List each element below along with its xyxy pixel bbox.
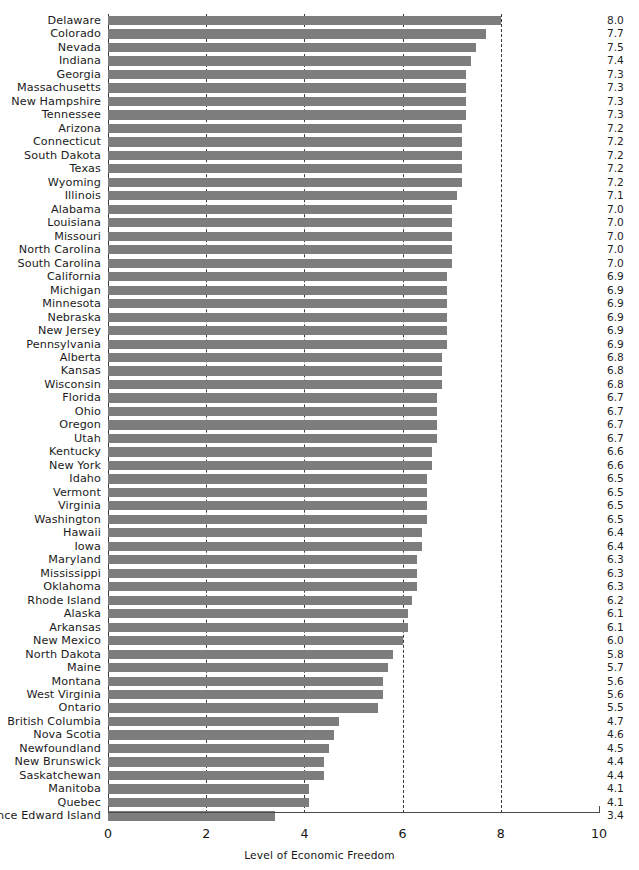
value-label: 7.5 [607, 41, 624, 54]
x-tick-label: 0 [78, 826, 138, 841]
x-axis-line [108, 812, 599, 813]
category-label: Rhode Island [0, 594, 101, 607]
bar-row: Arkansas6.1 [0, 621, 639, 634]
bar-row: Ohio6.7 [0, 405, 639, 418]
value-label: 4.1 [607, 782, 624, 795]
category-label: Minnesota [0, 297, 101, 310]
category-label: South Dakota [0, 149, 101, 162]
value-label: 4.4 [607, 755, 624, 768]
value-label: 7.2 [607, 122, 624, 135]
bar-row: Connecticut7.2 [0, 135, 639, 148]
bar [108, 474, 427, 483]
bar [108, 420, 437, 429]
bar [108, 730, 334, 739]
bar [108, 313, 447, 322]
bar [108, 29, 486, 38]
bar [108, 515, 427, 524]
category-label: New Mexico [0, 634, 101, 647]
bar [108, 461, 432, 470]
value-label: 5.6 [607, 688, 624, 701]
bar [108, 447, 432, 456]
value-label: 6.9 [607, 324, 624, 337]
category-label: Arkansas [0, 621, 101, 634]
bar [108, 528, 422, 537]
category-label: Quebec [0, 796, 101, 809]
bar [108, 205, 452, 214]
bar-row: Alaska6.1 [0, 607, 639, 620]
bar-row: Pennsylvania6.9 [0, 338, 639, 351]
value-label: 5.7 [607, 661, 624, 674]
value-label: 6.7 [607, 418, 624, 431]
category-label: Missouri [0, 230, 101, 243]
category-label: Newfoundland [0, 742, 101, 755]
x-tick-label: 6 [373, 826, 433, 841]
bar-row: Nebraska6.9 [0, 311, 639, 324]
bar [108, 636, 403, 645]
category-label: Prince Edward Island [0, 809, 101, 822]
bar-row: Indiana7.4 [0, 54, 639, 67]
value-label: 6.1 [607, 621, 624, 634]
bar [108, 582, 417, 591]
category-label: Nevada [0, 41, 101, 54]
category-label: Ohio [0, 405, 101, 418]
bar [108, 542, 422, 551]
value-label: 5.6 [607, 675, 624, 688]
bar-row: California6.9 [0, 270, 639, 283]
bar [108, 110, 466, 119]
bar [108, 191, 457, 200]
value-label: 7.7 [607, 27, 624, 40]
value-label: 8.0 [607, 14, 624, 27]
value-label: 7.2 [607, 176, 624, 189]
value-label: 4.5 [607, 742, 624, 755]
value-label: 6.3 [607, 553, 624, 566]
value-label: 6.9 [607, 270, 624, 283]
bar-row: New Brunswick4.4 [0, 755, 639, 768]
bar [108, 259, 452, 268]
bar [108, 488, 427, 497]
bar-row: Vermont6.5 [0, 486, 639, 499]
value-label: 6.3 [607, 567, 624, 580]
value-label: 7.2 [607, 135, 624, 148]
bar-row: Oklahoma6.3 [0, 580, 639, 593]
category-label: Kentucky [0, 445, 101, 458]
bar-row: South Dakota7.2 [0, 149, 639, 162]
value-label: 6.6 [607, 445, 624, 458]
value-label: 6.8 [607, 351, 624, 364]
value-label: 4.1 [607, 796, 624, 809]
bar-row: Delaware8.0 [0, 14, 639, 27]
value-label: 6.0 [607, 634, 624, 647]
value-label: 4.7 [607, 715, 624, 728]
bar [108, 326, 447, 335]
bar-row: Rhode Island6.2 [0, 594, 639, 607]
economic-freedom-bar-chart: Delaware8.0Colorado7.7Nevada7.5Indiana7.… [0, 0, 639, 870]
bar [108, 83, 466, 92]
bar-row: North Carolina7.0 [0, 243, 639, 256]
value-label: 7.0 [607, 243, 624, 256]
category-label: Alaska [0, 607, 101, 620]
value-label: 6.9 [607, 338, 624, 351]
category-label: Texas [0, 162, 101, 175]
bar-row: Missouri7.0 [0, 230, 639, 243]
category-label: British Columbia [0, 715, 101, 728]
value-label: 3.4 [607, 809, 624, 822]
bar [108, 340, 447, 349]
category-label: North Dakota [0, 648, 101, 661]
category-label: Oregon [0, 418, 101, 431]
bar [108, 434, 437, 443]
bar-row: Minnesota6.9 [0, 297, 639, 310]
bar [108, 690, 383, 699]
bar [108, 677, 383, 686]
category-label: Washington [0, 513, 101, 526]
bar [108, 623, 408, 632]
value-label: 7.0 [607, 216, 624, 229]
bar-row: Manitoba4.1 [0, 782, 639, 795]
bar-row: Arizona7.2 [0, 122, 639, 135]
x-axis-title: Level of Economic Freedom [0, 849, 639, 861]
value-label: 5.8 [607, 648, 624, 661]
bar-row: Oregon6.7 [0, 418, 639, 431]
bar [108, 232, 452, 241]
bar-row: British Columbia4.7 [0, 715, 639, 728]
category-label: Indiana [0, 54, 101, 67]
value-label: 7.0 [607, 230, 624, 243]
category-label: New Jersey [0, 324, 101, 337]
